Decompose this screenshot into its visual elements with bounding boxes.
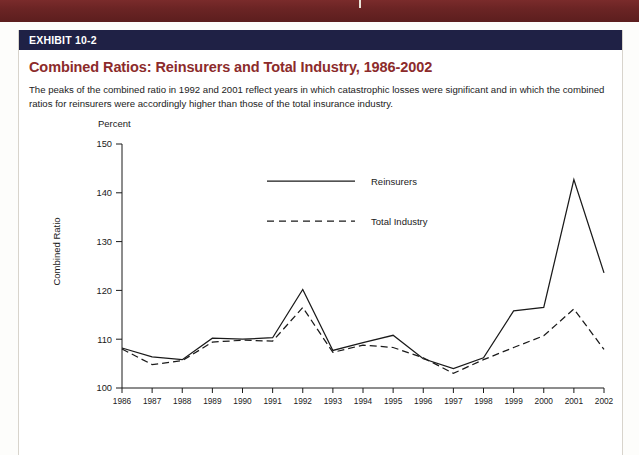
exhibit-page: EXHIBIT 10-2 Combined Ratios: Reinsurers… xyxy=(0,0,639,455)
line-chart: 1001101201301401501986198719881989199019… xyxy=(19,116,624,416)
x-tick-label: 1994 xyxy=(354,396,373,406)
header-strip-tick xyxy=(359,0,361,8)
x-tick-label: 1997 xyxy=(444,396,463,406)
series-line-reinsurers xyxy=(122,180,604,369)
x-tick-label: 1989 xyxy=(203,396,222,406)
legend-label-reinsurers: Reinsurers xyxy=(371,176,417,187)
x-tick-label: 1999 xyxy=(504,396,523,406)
legend-label-total-industry: Total Industry xyxy=(371,216,428,227)
exhibit-number-label: EXHIBIT 10-2 xyxy=(29,34,97,46)
y-tick-label: 130 xyxy=(96,237,112,247)
x-tick-label: 2001 xyxy=(565,396,584,406)
x-tick-label: 1993 xyxy=(324,396,343,406)
x-tick-label: 1990 xyxy=(233,396,252,406)
y-tick-label: 140 xyxy=(96,188,112,198)
x-tick-label: 1996 xyxy=(414,396,433,406)
x-tick-label: 2000 xyxy=(535,396,554,406)
page-header-strip xyxy=(0,0,639,22)
y-axis-title: Combined Ratio xyxy=(51,197,62,307)
y-tick-label: 110 xyxy=(97,335,112,345)
x-tick-label: 2002 xyxy=(595,396,614,406)
x-tick-label: 1988 xyxy=(173,396,192,406)
x-tick-label: 1995 xyxy=(384,396,403,406)
x-tick-label: 1992 xyxy=(294,396,313,406)
y-tick-label: 100 xyxy=(96,383,112,393)
y-tick-label: 120 xyxy=(96,286,112,296)
x-tick-label: 1986 xyxy=(113,396,132,406)
exhibit-band: EXHIBIT 10-2 xyxy=(19,30,622,50)
chart-unit-label: Percent xyxy=(98,118,131,129)
exhibit-card: EXHIBIT 10-2 Combined Ratios: Reinsurers… xyxy=(18,30,623,455)
y-tick-label: 150 xyxy=(96,139,112,149)
exhibit-title: Combined Ratios: Reinsurers and Total In… xyxy=(29,59,622,75)
series-line-total-industry xyxy=(122,307,604,373)
exhibit-description: The peaks of the combined ratio in 1992 … xyxy=(29,83,609,110)
chart-container: Percent Combined Ratio 10011012013014015… xyxy=(19,116,624,416)
x-tick-label: 1987 xyxy=(143,396,162,406)
x-tick-label: 1998 xyxy=(474,396,493,406)
x-tick-label: 1991 xyxy=(263,396,282,406)
